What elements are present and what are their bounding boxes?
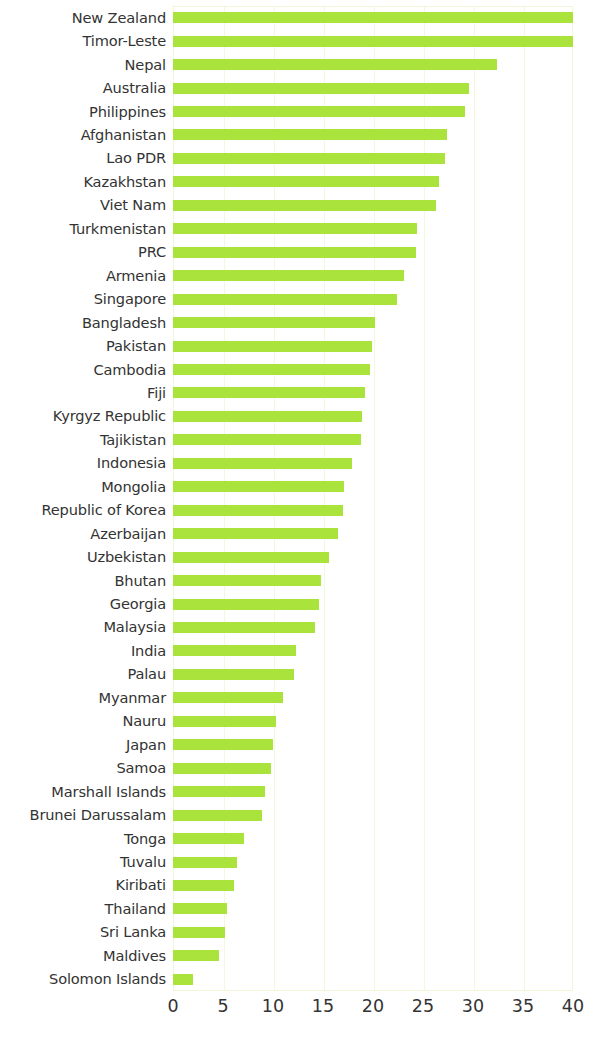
category-label: Kiribati xyxy=(0,876,166,893)
bar-row xyxy=(173,545,573,568)
bar-row xyxy=(173,897,573,920)
gridline xyxy=(574,7,575,990)
bar xyxy=(173,411,362,422)
bar-row xyxy=(173,663,573,686)
bar xyxy=(173,552,329,563)
bar-row xyxy=(173,522,573,545)
category-label: Bangladesh xyxy=(0,314,166,331)
category-label: Malaysia xyxy=(0,618,166,635)
bar xyxy=(173,880,234,891)
bar xyxy=(173,786,265,797)
bar xyxy=(173,200,436,211)
category-label: Maldives xyxy=(0,947,166,964)
category-label: Cambodia xyxy=(0,361,166,378)
category-label: Pakistan xyxy=(0,337,166,354)
bar-series xyxy=(173,6,573,991)
category-label: Mongolia xyxy=(0,478,166,495)
category-axis-labels: New ZealandTimor-LesteNepalAustraliaPhil… xyxy=(0,6,166,991)
bar xyxy=(173,36,573,47)
bar-row xyxy=(173,921,573,944)
bar-row xyxy=(173,405,573,428)
bar xyxy=(173,692,283,703)
category-label: New Zealand xyxy=(0,9,166,26)
category-label: Singapore xyxy=(0,290,166,307)
category-label: Tajikistan xyxy=(0,431,166,448)
bar xyxy=(173,927,225,938)
bar-row xyxy=(173,686,573,709)
category-label: Nauru xyxy=(0,712,166,729)
category-label: Fiji xyxy=(0,384,166,401)
bar xyxy=(173,129,447,140)
bar xyxy=(173,59,497,70)
category-label: Uzbekistan xyxy=(0,548,166,565)
bar xyxy=(173,833,244,844)
bar-row xyxy=(173,944,573,967)
bar xyxy=(173,106,465,117)
bar-row xyxy=(173,334,573,357)
category-label: Tuvalu xyxy=(0,853,166,870)
bar-row xyxy=(173,170,573,193)
bar-row xyxy=(173,452,573,475)
horizontal-bar-chart: New ZealandTimor-LesteNepalAustraliaPhil… xyxy=(0,0,593,1040)
bar xyxy=(173,387,365,398)
bar xyxy=(173,364,370,375)
bar-row xyxy=(173,264,573,287)
bar-row xyxy=(173,874,573,897)
bar xyxy=(173,974,193,985)
bar xyxy=(173,645,296,656)
bar-row xyxy=(173,358,573,381)
bar xyxy=(173,434,361,445)
bar-row xyxy=(173,639,573,662)
bar xyxy=(173,716,276,727)
x-tick-label: 30 xyxy=(462,996,484,1016)
bar-row xyxy=(173,287,573,310)
bar xyxy=(173,83,469,94)
category-label: Japan xyxy=(0,736,166,753)
bar-row xyxy=(173,381,573,404)
bar xyxy=(173,294,397,305)
category-label: Georgia xyxy=(0,595,166,612)
category-label: Marshall Islands xyxy=(0,783,166,800)
category-label: Australia xyxy=(0,79,166,96)
bar-row xyxy=(173,499,573,522)
category-label: Indonesia xyxy=(0,454,166,471)
category-label: Brunei Darussalam xyxy=(0,806,166,823)
category-label: Myanmar xyxy=(0,689,166,706)
bar-row xyxy=(173,311,573,334)
bar xyxy=(173,599,319,610)
category-label: Nepal xyxy=(0,56,166,73)
category-label: Philippines xyxy=(0,103,166,120)
bar-row xyxy=(173,6,573,29)
category-label: Viet Nam xyxy=(0,196,166,213)
bar-row xyxy=(173,241,573,264)
bar-row xyxy=(173,29,573,52)
x-tick-label: 25 xyxy=(412,996,434,1016)
bar-row xyxy=(173,569,573,592)
bar xyxy=(173,528,338,539)
bar xyxy=(173,223,417,234)
bar xyxy=(173,247,416,258)
bar xyxy=(173,739,273,750)
category-label: PRC xyxy=(0,243,166,260)
category-label: Republic of Korea xyxy=(0,501,166,518)
bar xyxy=(173,458,352,469)
category-label: Timor-Leste xyxy=(0,32,166,49)
bar xyxy=(173,810,262,821)
bar-row xyxy=(173,53,573,76)
category-label: Tonga xyxy=(0,830,166,847)
bar-row xyxy=(173,827,573,850)
bar xyxy=(173,176,439,187)
category-label: Turkmenistan xyxy=(0,220,166,237)
x-tick-label: 40 xyxy=(562,996,584,1016)
bar-row xyxy=(173,592,573,615)
bar-row xyxy=(173,780,573,803)
category-label: Kyrgyz Republic xyxy=(0,407,166,424)
bar-row xyxy=(173,756,573,779)
category-label: Sri Lanka xyxy=(0,923,166,940)
bar-row xyxy=(173,100,573,123)
category-label: Kazakhstan xyxy=(0,173,166,190)
category-label: Thailand xyxy=(0,900,166,917)
category-label: Lao PDR xyxy=(0,149,166,166)
category-label: India xyxy=(0,642,166,659)
category-label: Solomon Islands xyxy=(0,970,166,987)
